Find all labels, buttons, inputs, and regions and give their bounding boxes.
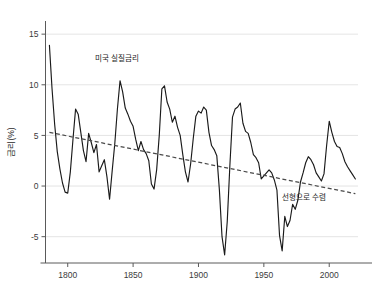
axes-group (41, 21, 373, 263)
tick-labels-group: -505101518001850190019502000 (29, 29, 339, 279)
y-tick-label-5: 5 (34, 131, 39, 141)
series-path-real-rate (49, 45, 355, 255)
real-interest-rate-chart: -505101518001850190019502000 미국 실질금리선형으로… (0, 0, 377, 300)
chart-root: -505101518001850190019502000 미국 실질금리선형으로… (0, 0, 377, 300)
y-tick-label-0: 0 (34, 181, 39, 191)
x-tick-label-1900: 1900 (189, 270, 208, 280)
y-tick-label-15: 15 (29, 29, 39, 39)
tick-marks-group (42, 34, 330, 267)
series-path-trend (49, 132, 355, 193)
y-tick-label--5: -5 (31, 232, 39, 242)
x-tick-label-1850: 1850 (124, 270, 143, 280)
annotations-group: 미국 실질금리선형으로 수렴 (95, 53, 326, 202)
x-tick-label-1800: 1800 (58, 270, 77, 280)
x-tick-label-2000: 2000 (320, 270, 339, 280)
gridlines-group (46, 34, 359, 237)
annotation-label-0: 미국 실질금리 (95, 53, 139, 63)
series-group (49, 45, 355, 255)
x-tick-label-1950: 1950 (254, 270, 273, 280)
annotation-label-1: 선형으로 수렴 (282, 193, 326, 202)
y-tick-label-10: 10 (29, 80, 39, 90)
axis-title-group: 금리(%) (6, 127, 16, 156)
y-axis-title: 금리(%) (6, 127, 16, 156)
